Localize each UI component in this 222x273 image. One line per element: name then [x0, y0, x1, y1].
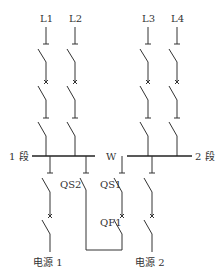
feeder-l1 [38, 27, 49, 156]
source-2-branch [144, 156, 155, 252]
bus-section-1-label: 1 段 [9, 150, 29, 162]
source-1-branch [42, 156, 53, 252]
qs1-label: QS1 [100, 179, 121, 190]
disconnector-blade [38, 122, 46, 136]
feeder-l3 [140, 27, 151, 156]
feeder-l2 [67, 27, 78, 156]
wiring-diagram: L1 L2 L3 L4 [0, 0, 222, 273]
qs2-label: QS2 [60, 179, 81, 190]
feeder-label-l3: L3 [142, 13, 155, 24]
bus-section-2-label: 2 段 [195, 150, 215, 162]
qs2-branch [80, 156, 122, 250]
feeder-label-l2: L2 [69, 13, 82, 24]
source-1-label: 电源 1 [33, 256, 63, 268]
feeder-label-l4: L4 [171, 13, 184, 24]
bus-coupler-label: W [106, 151, 117, 162]
qs1-qf1-branch [114, 156, 125, 250]
breaker-blade [38, 86, 46, 100]
feeder-label-l1: L1 [40, 13, 53, 24]
feeder-l4 [169, 27, 180, 156]
disconnector-blade [38, 49, 46, 62]
qf1-label: QF1 [100, 217, 122, 228]
source-2-label: 电源 2 [135, 256, 165, 268]
